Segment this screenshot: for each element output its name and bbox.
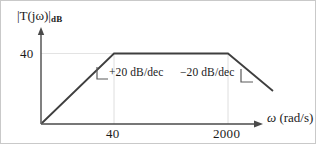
x-axis-title-symbol: ω: [267, 110, 276, 125]
x-tick-label-40: 40: [106, 127, 120, 140]
y-axis-arrowhead: [38, 27, 44, 35]
y-axis-title-subscript: dB: [51, 14, 62, 24]
y-axis-title: |T(jω)|dB: [17, 9, 62, 24]
y-axis-title-main: |T(jω)|: [17, 8, 51, 23]
x-axis-arrowhead: [254, 121, 263, 128]
x-axis-title-units: (rad/s): [279, 110, 313, 125]
falling-slope-label: −20 dB/dec: [180, 67, 234, 79]
falling-slope-bracket-icon: [241, 69, 253, 82]
bode-plot-figure: |T(jω)|dB 40 +20 dB/dec −20 dB/dec 40 20…: [0, 0, 316, 144]
rising-slope-label: +20 dB/dec: [109, 67, 163, 79]
y-tick-label-40: 40: [20, 47, 34, 60]
magnitude-response-curve: [42, 54, 273, 124]
x-axis-title: ω (rad/s): [267, 111, 313, 124]
x-tick-label-2000: 2000: [213, 127, 240, 140]
